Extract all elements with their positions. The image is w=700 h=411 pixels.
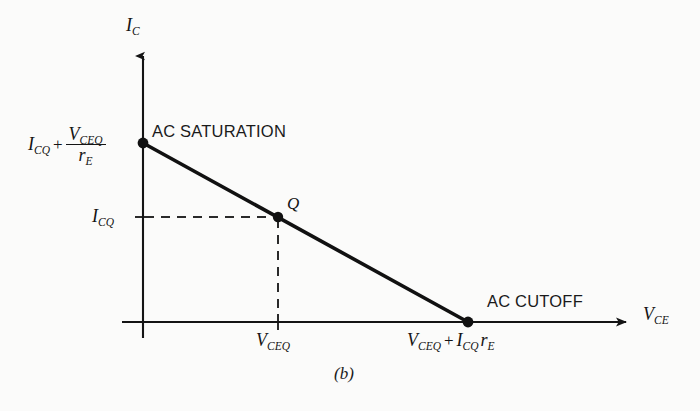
x-tick-label-vceq: VCEQ xyxy=(256,331,290,349)
cutoff-term1-base: V xyxy=(407,330,418,350)
saturation-fraction: VCEQrE xyxy=(66,125,106,164)
q-point-marker xyxy=(273,212,283,222)
y-tick-label-icq: ICQ xyxy=(92,207,114,225)
icq-sub: CQ xyxy=(98,216,114,228)
saturation-fraction-denominator: rE xyxy=(66,145,106,164)
ac-cutoff-point xyxy=(463,317,474,328)
x-tick-label-cutoff: VCEQ+ICQrE xyxy=(407,331,495,349)
x-axis-label-sub: CE xyxy=(654,314,669,326)
vceq-sub: CEQ xyxy=(267,340,290,352)
figure-container: IC VCE ICQ+VCEQrE ICQ AC SATURATION AC C… xyxy=(0,0,700,411)
y-axis-label: IC xyxy=(126,16,140,34)
x-axis-label-base: V xyxy=(643,304,654,324)
cutoff-term3-base: r xyxy=(479,330,488,350)
cutoff-term2-sub: CQ xyxy=(463,340,479,352)
cutoff-term2-base: I xyxy=(457,330,463,350)
figure-caption: (b) xyxy=(334,365,354,382)
saturation-operator: + xyxy=(50,135,66,154)
cutoff-term3-sub: E xyxy=(488,340,495,352)
cutoff-operator: + xyxy=(441,331,457,350)
saturation-den-sub: E xyxy=(86,155,93,167)
saturation-den-base: r xyxy=(79,145,86,165)
vceq-base: V xyxy=(256,330,267,350)
saturation-num-base: V xyxy=(69,124,80,144)
ac-load-line xyxy=(143,143,468,322)
ac-saturation-label: AC SATURATION xyxy=(152,123,286,140)
saturation-fraction-numerator: VCEQ xyxy=(66,125,106,145)
ac-cutoff-label: AC CUTOFF xyxy=(487,293,583,310)
x-axis-label: VCE xyxy=(643,305,669,323)
load-line-plot xyxy=(0,0,700,411)
q-point-label: Q xyxy=(287,195,299,212)
ac-saturation-point xyxy=(138,138,149,149)
y-axis-label-sub: C xyxy=(132,25,140,37)
y-tick-label-saturation: ICQ+VCEQrE xyxy=(28,126,106,165)
saturation-num-sub: CEQ xyxy=(80,134,103,146)
saturation-term1-sub: CQ xyxy=(34,144,50,156)
cutoff-term1-sub: CEQ xyxy=(418,340,441,352)
